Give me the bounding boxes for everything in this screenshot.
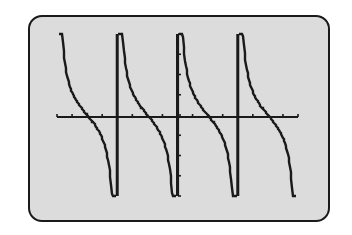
cotangent-branch (59, 34, 116, 196)
cotangent-branch (239, 34, 296, 196)
cotangent-branch (179, 34, 237, 196)
calculator-graph-figure (0, 0, 352, 235)
cotangent-branch (118, 34, 176, 196)
cotangent-plot (0, 0, 352, 235)
